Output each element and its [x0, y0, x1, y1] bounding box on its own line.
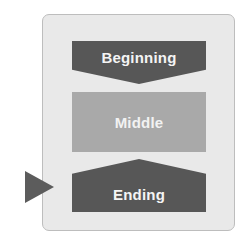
stage-beginning-label: Beginning: [101, 49, 176, 66]
stage-ending-label: Ending: [113, 186, 165, 203]
triangle-right-icon: [25, 171, 54, 203]
stage-middle-label: Middle: [115, 114, 164, 131]
stage-middle: Middle: [72, 92, 206, 152]
